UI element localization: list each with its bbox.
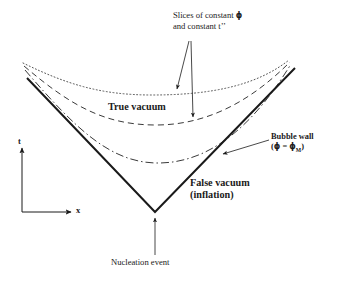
light-cone-bubble-wall [27, 68, 295, 212]
bubble-wall-label-line2: (ϕ = ϕM) [271, 142, 314, 153]
slices-annotation: Slices of constant ϕ and constant t’’ [173, 10, 242, 31]
axes-group [22, 148, 71, 212]
false-vacuum-label-line1: False vacuum [190, 177, 250, 189]
bubble-wall-leader [223, 140, 269, 154]
slices-annotation-line2: and constant t’’ [173, 21, 242, 31]
nucleation-event-label: Nucleation event [111, 257, 169, 267]
slices-leader-to-dashed [191, 41, 193, 117]
false-vacuum-label: False vacuum (inflation) [190, 177, 250, 201]
t-axis-label: t [18, 137, 21, 147]
slice-constant-phi-outer [23, 60, 289, 95]
spacetime-diagram: Slices of constant ϕ and constant t’’ Tr… [0, 0, 341, 282]
slices-leader-to-dotted [177, 41, 189, 89]
slices-annotation-line1: Slices of constant ϕ [173, 10, 242, 21]
false-vacuum-label-line2: (inflation) [190, 189, 250, 201]
true-vacuum-label: True vacuum [108, 101, 166, 113]
bubble-wall-label: Bubble wall (ϕ = ϕM) [271, 132, 314, 153]
phi-symbol: ϕ [236, 10, 243, 20]
x-axis-label: x [76, 206, 80, 216]
double-prime-symbol: ’’ [221, 21, 226, 31]
